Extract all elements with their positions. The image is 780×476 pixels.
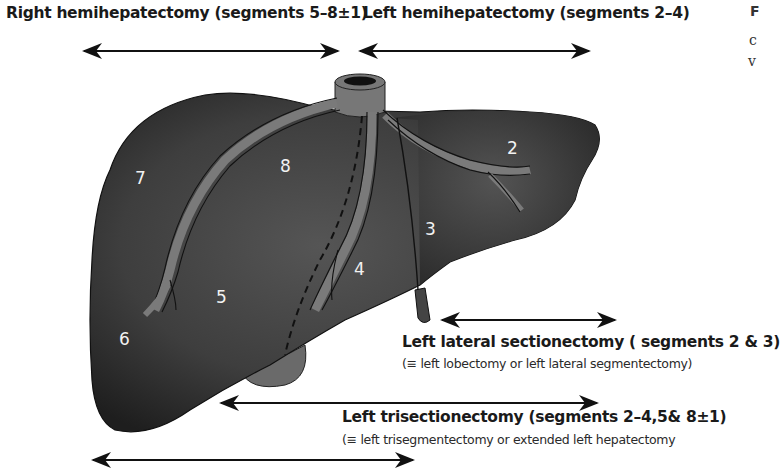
segment-4-label: 4 [354, 259, 365, 279]
segment-6-label: 6 [119, 329, 130, 349]
segment-3-label: 3 [425, 219, 436, 239]
segment-2-label: 2 [507, 138, 518, 158]
left-lateral-lobe [392, 111, 599, 285]
inferior-vena-cava [335, 74, 385, 117]
segment-7-label: 7 [135, 168, 146, 188]
segment-8-label: 8 [280, 156, 291, 176]
segment-5-label: 5 [216, 287, 227, 307]
